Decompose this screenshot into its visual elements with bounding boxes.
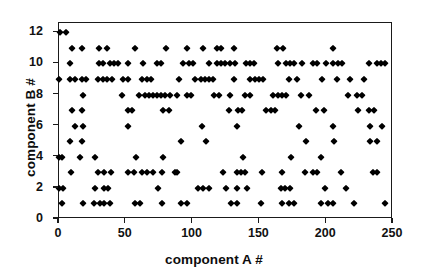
data-point — [177, 138, 183, 144]
data-point — [188, 91, 194, 97]
data-point — [176, 76, 182, 82]
data-point — [347, 76, 353, 82]
data-point — [131, 169, 137, 175]
data-point — [302, 169, 308, 175]
data-point — [279, 169, 285, 175]
data-point — [312, 107, 318, 113]
data-point — [291, 60, 297, 66]
data-point — [205, 60, 211, 66]
data-point — [306, 91, 312, 97]
data-point — [280, 45, 286, 51]
data-point — [69, 107, 75, 113]
data-point — [339, 60, 345, 66]
data-point — [209, 76, 215, 82]
data-point — [115, 60, 121, 66]
data-point — [94, 169, 100, 175]
data-point — [105, 185, 111, 191]
data-point — [233, 200, 239, 206]
data-point — [367, 122, 373, 128]
data-point — [360, 76, 366, 82]
data-point — [78, 45, 84, 51]
data-point — [68, 169, 74, 175]
x-tick-label: 150 — [248, 226, 269, 240]
data-point — [227, 91, 233, 97]
data-point — [160, 154, 166, 160]
y-tick — [53, 31, 58, 32]
data-point — [82, 76, 88, 82]
data-point — [125, 76, 131, 82]
data-point — [119, 91, 125, 97]
data-point — [314, 169, 320, 175]
y-axis-title: component B # — [23, 28, 38, 228]
data-point — [167, 91, 173, 97]
data-point — [140, 60, 146, 66]
data-points-layer — [59, 23, 391, 217]
data-point — [314, 60, 320, 66]
data-point — [382, 60, 388, 66]
data-point — [334, 76, 340, 82]
data-point — [291, 200, 297, 206]
data-point — [338, 169, 344, 175]
data-point — [189, 60, 195, 66]
data-point — [286, 76, 292, 82]
data-point — [318, 154, 324, 160]
data-point — [159, 200, 165, 206]
data-point — [109, 76, 115, 82]
data-point — [298, 91, 304, 97]
data-point — [203, 138, 209, 144]
data-point — [247, 91, 253, 97]
data-point — [244, 185, 250, 191]
data-point — [205, 185, 211, 191]
data-point — [132, 45, 138, 51]
data-point — [275, 60, 281, 66]
data-point — [78, 107, 84, 113]
scatter-plot-figure: 050100150200250 024681012 component A # … — [0, 0, 428, 278]
x-tick-label: 0 — [55, 226, 62, 240]
data-point — [137, 200, 143, 206]
data-point — [107, 200, 113, 206]
plot-area — [58, 22, 392, 218]
data-point — [92, 185, 98, 191]
data-point — [101, 169, 107, 175]
data-point — [322, 185, 328, 191]
data-point — [374, 169, 380, 175]
data-point — [80, 91, 86, 97]
data-point — [371, 107, 377, 113]
data-point — [173, 91, 179, 97]
data-point — [330, 122, 336, 128]
data-point — [233, 122, 239, 128]
data-point — [165, 107, 171, 113]
y-axis-ticks — [53, 22, 58, 218]
data-point — [294, 76, 300, 82]
data-point — [260, 76, 266, 82]
data-point — [72, 122, 78, 128]
data-point — [149, 169, 155, 175]
data-point — [100, 60, 106, 66]
data-point — [287, 185, 293, 191]
data-point — [72, 76, 78, 82]
data-point — [220, 169, 226, 175]
data-point — [60, 185, 66, 191]
data-point — [272, 107, 278, 113]
data-point — [225, 107, 231, 113]
data-point — [133, 154, 139, 160]
data-point — [217, 45, 223, 51]
data-point — [330, 45, 336, 51]
data-point — [157, 60, 163, 66]
x-axis-title: component A # — [0, 252, 428, 267]
data-point — [331, 138, 337, 144]
data-point — [379, 122, 385, 128]
data-point — [355, 107, 361, 113]
data-point — [232, 60, 238, 66]
data-point — [259, 169, 265, 175]
data-point — [344, 91, 350, 97]
y-tick — [53, 62, 58, 63]
data-point — [90, 200, 96, 206]
data-point — [382, 200, 388, 206]
data-point — [231, 76, 237, 82]
x-tick-label: 100 — [181, 226, 202, 240]
data-point — [184, 45, 190, 51]
data-point — [367, 138, 373, 144]
data-point — [319, 76, 325, 82]
data-point — [283, 91, 289, 97]
